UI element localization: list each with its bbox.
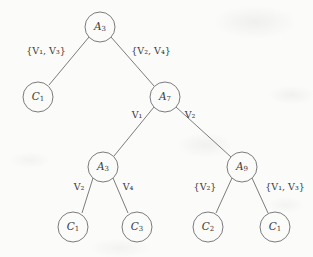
edge-label-a3-left: V₂: [74, 182, 85, 192]
node-label-a3-mid: A3: [97, 161, 109, 174]
edge-label-a7-left: V₁: [132, 110, 143, 120]
edge-a9-to-c2: [216, 178, 232, 213]
node-label-leaf-c2: C2: [202, 221, 215, 234]
edge-root-to-c1: [49, 37, 89, 85]
edge-label-root-right: {V₂, V₄}: [131, 46, 170, 56]
node-label-leaf-c1-bottom-right: C1: [269, 221, 282, 234]
node-label-root: A3: [94, 21, 106, 34]
node-label-leaf-c1-left: C1: [32, 91, 45, 104]
node-label-a9: A9: [236, 161, 248, 174]
edge-label-a9-right: {V₁, V₃}: [265, 182, 304, 192]
node-label-leaf-c1-bottom-left: C1: [67, 221, 80, 234]
edge-label-a3-right: V₄: [123, 182, 134, 192]
edge-label-root-left: {V₁, V₃}: [26, 46, 65, 56]
diagram-canvas: A3 C1 A7 A3 A9 C1 C3 C2 C1 {V₁, V₃} {V₂,…: [0, 0, 313, 257]
edge-label-a7-right: V₂: [185, 110, 196, 120]
tree-graphics: [0, 0, 313, 257]
node-label-leaf-c3: C3: [131, 221, 144, 234]
node-label-a7: A7: [159, 91, 171, 104]
edge-label-a9-left: {V₂}: [194, 182, 217, 192]
